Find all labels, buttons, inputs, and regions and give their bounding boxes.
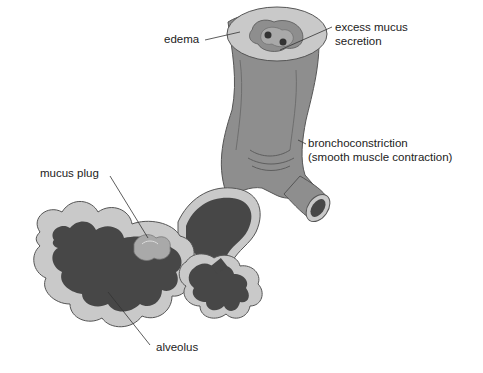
- label-bronchoconstriction-line1: bronchoconstriction: [308, 136, 452, 150]
- label-alveolus: alveolus: [156, 340, 198, 354]
- label-excess-mucus: excess mucus secretion: [335, 20, 408, 48]
- label-bronchoconstriction: bronchoconstriction (smooth muscle contr…: [308, 136, 452, 164]
- asthma-airway-diagram: [0, 0, 483, 373]
- small-alveolus: [179, 254, 262, 318]
- cross-section: [227, 7, 327, 61]
- label-edema: edema: [164, 32, 199, 46]
- mucus-plug: [134, 235, 170, 261]
- label-bronchoconstriction-line2: (smooth muscle contraction): [308, 150, 452, 164]
- label-excess-mucus-line1: excess mucus: [335, 20, 408, 34]
- large-alveolus: [34, 201, 194, 326]
- label-excess-mucus-line2: secretion: [335, 34, 408, 48]
- label-mucus-plug: mucus plug: [40, 166, 99, 180]
